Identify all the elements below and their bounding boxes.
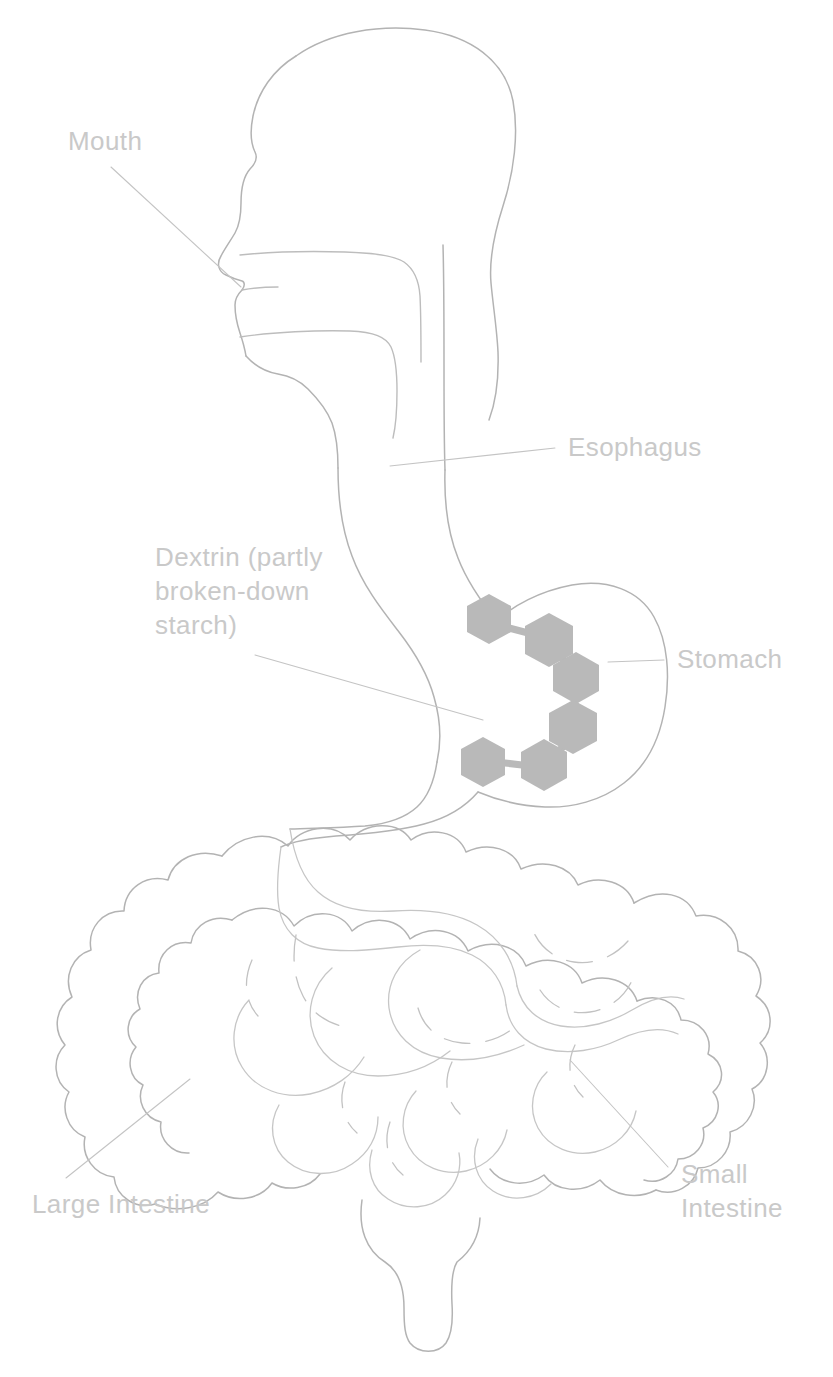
small-intestine-group xyxy=(234,829,684,1207)
small-intestine-loop-path xyxy=(474,1139,551,1198)
small-intestine-loop-path xyxy=(389,950,524,1060)
descending-colon-outer-path xyxy=(634,894,770,1192)
small-intestine-hidden-loop-path xyxy=(531,925,628,963)
small-intestine-loop-path xyxy=(273,1105,378,1174)
transverse-colon-top-path xyxy=(222,826,634,903)
small-intestine-hidden-loop-path xyxy=(540,978,633,1013)
esophagus-leader-line xyxy=(390,448,555,466)
small-intestine-hidden-loop-path xyxy=(387,1122,403,1175)
duodenum-path xyxy=(281,792,478,847)
label-dextrin-line3: starch) xyxy=(155,610,237,640)
rectum-path xyxy=(361,1200,480,1351)
molecule-bond xyxy=(505,763,522,765)
sigmoid-colon-path xyxy=(490,1169,656,1195)
pharynx-wall-path xyxy=(443,245,445,470)
head-outline-path xyxy=(296,28,516,420)
dextrin-leader-line xyxy=(255,655,483,720)
large-intestine-group xyxy=(56,826,770,1352)
label-stomach: Stomach xyxy=(677,644,782,674)
label-small-intestine-line2: Intestine xyxy=(681,1193,783,1223)
stomach-inner-curve-path xyxy=(290,762,437,829)
small-intestine-hidden-loop-path xyxy=(418,1008,520,1043)
esophagus-left-wall-path xyxy=(338,468,440,762)
label-large-intestine: Large Intestine xyxy=(32,1189,210,1219)
labels-group: Mouth Esophagus Dextrin (partly broken-d… xyxy=(32,126,783,1223)
descending-colon-inner-path xyxy=(637,998,722,1181)
label-dextrin-line1: Dextrin (partly xyxy=(155,542,323,572)
dextrin-unit-hexagon xyxy=(467,594,511,644)
mouth-leader-line xyxy=(111,167,241,287)
label-dextrin-line2: broken-down xyxy=(155,576,310,606)
small-intestine-loop-path xyxy=(403,1091,507,1172)
anatomy-illustration: Mouth Esophagus Dextrin (partly broken-d… xyxy=(0,0,833,1377)
large-intestine-leader-line xyxy=(66,1079,190,1178)
digestive-system-diagram: Mouth Esophagus Dextrin (partly broken-d… xyxy=(0,0,833,1377)
label-esophagus: Esophagus xyxy=(568,432,702,462)
small-intestine-loop-path xyxy=(234,1000,364,1095)
label-dextrin: Dextrin (partly broken-down starch) xyxy=(155,542,323,640)
upper-lip-path xyxy=(242,287,278,290)
dextrin-molecule-group xyxy=(461,594,599,791)
label-small-intestine: Small Intestine xyxy=(681,1159,783,1223)
stomach-leader-line xyxy=(608,660,664,662)
transverse-colon-bottom-path xyxy=(232,908,637,1001)
dextrin-unit-hexagon xyxy=(461,737,505,787)
small-intestine-loop-path xyxy=(370,1150,460,1207)
small-intestine-loop-path xyxy=(532,1072,636,1153)
palate-path xyxy=(240,252,421,362)
ascending-colon-outer-path xyxy=(56,853,222,1205)
tongue-path xyxy=(240,331,397,438)
small-intestine-hidden-loop-path xyxy=(246,960,258,1016)
jaw-chin-path xyxy=(246,356,338,468)
small-intestine-hidden-loop-path xyxy=(342,1082,357,1133)
small-intestine-hidden-loop-path xyxy=(570,1045,583,1097)
head-profile-group xyxy=(219,28,516,470)
face-profile-path xyxy=(219,56,296,356)
label-small-intestine-line1: Small xyxy=(681,1159,748,1189)
ascending-colon-inner-path xyxy=(128,918,232,1153)
small-intestine-hidden-loop-path xyxy=(447,1062,460,1114)
small-intestine-leader-line xyxy=(570,1060,668,1167)
label-mouth: Mouth xyxy=(68,126,142,156)
